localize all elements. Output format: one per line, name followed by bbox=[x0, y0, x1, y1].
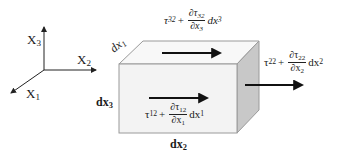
tau12-num-text: ∂τ bbox=[170, 101, 179, 112]
stress-label-tau32: τ32 + ∂τ32 ∂x3 dx3 bbox=[164, 8, 222, 33]
tau22-num-text: ∂τ bbox=[289, 49, 298, 60]
dim-label-dx2: dx2 bbox=[170, 138, 187, 153]
tau32-fraction: ∂τ32 ∂x3 bbox=[188, 8, 206, 33]
axis-x3-sub: 3 bbox=[36, 38, 41, 48]
tau12-fraction: ∂τ12 ∂x1 bbox=[169, 102, 187, 127]
tau12-sub: 12 bbox=[149, 110, 157, 118]
tau12-denominator: ∂x1 bbox=[172, 115, 185, 127]
tau32-tail-sub: 3 bbox=[218, 16, 222, 24]
tau22-fraction: ∂τ22 ∂x2 bbox=[288, 50, 306, 75]
tau22-den-sub: 2 bbox=[301, 67, 305, 75]
tau22-tail: dx bbox=[308, 57, 319, 68]
dx3-sub: 3 bbox=[109, 101, 113, 110]
tau32-sub: 32 bbox=[168, 16, 176, 24]
tau12-tail-sub: 1 bbox=[200, 110, 204, 118]
tau32-tail: dx bbox=[207, 15, 217, 26]
tau22-num-sub: 22 bbox=[298, 54, 305, 62]
tau32-den-text: ∂x bbox=[190, 20, 199, 31]
tau22-plus: + bbox=[278, 57, 284, 68]
stress-label-tau12: τ12 + ∂τ12 ∂x1 dx1 bbox=[145, 102, 204, 127]
tau22-tail-sub: 2 bbox=[319, 58, 323, 66]
dx3-base: dx bbox=[96, 95, 109, 109]
axis-label-x2: X2 bbox=[77, 53, 91, 68]
tau32-num-sub: 32 bbox=[197, 12, 204, 20]
tau32-plus: + bbox=[178, 15, 184, 26]
dim-label-dx3: dx3 bbox=[96, 96, 113, 111]
tau22-sub: 22 bbox=[268, 58, 276, 66]
tau32-denominator: ∂x3 bbox=[190, 21, 203, 33]
tau12-den-sub: 1 bbox=[182, 119, 186, 127]
axis-label-x1: X1 bbox=[26, 87, 40, 102]
tau32-den-sub: 3 bbox=[200, 25, 204, 33]
axis-x1-base: X bbox=[26, 86, 35, 101]
tau22-den-text: ∂x bbox=[291, 62, 301, 73]
dx2-base: dx bbox=[170, 137, 183, 151]
tau12-plus: + bbox=[159, 109, 165, 120]
tau12-num-sub: 12 bbox=[179, 106, 186, 114]
axis-label-x3: X3 bbox=[27, 33, 41, 48]
tau12-den-text: ∂x bbox=[172, 114, 182, 125]
dx2-sub: 2 bbox=[183, 143, 187, 152]
axis-x3-base: X bbox=[27, 32, 36, 47]
stress-label-tau22: τ22 + ∂τ22 ∂x2 dx2 bbox=[264, 50, 323, 75]
axis-x1-sub: 1 bbox=[35, 92, 40, 102]
tau22-denominator: ∂x2 bbox=[291, 63, 304, 75]
axis-x2-sub: 2 bbox=[86, 58, 91, 68]
axis-x2-base: X bbox=[77, 52, 86, 67]
tau12-tail: dx bbox=[189, 109, 200, 120]
